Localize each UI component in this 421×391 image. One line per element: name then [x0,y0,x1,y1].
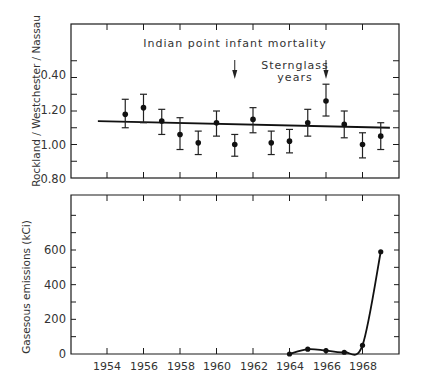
bottom-ytick-label: 600 [44,243,66,257]
bottom-ytick-label: 400 [44,278,66,292]
chart-figure: Indian point infant mortality Sternglass… [0,0,421,391]
data-point [250,108,257,133]
xtick-label: 1954 [93,360,121,373]
top-ytick-label: 0.40 [40,68,66,82]
top-ytick-label: 0.80 [40,172,66,186]
bottom-panel: Gasesous emissions (kCi) 600 400 200 0 1… [20,195,399,373]
emission-point [305,347,310,352]
emissions-curve [290,252,381,355]
data-point [213,111,220,136]
bottom-ytick-label: 200 [44,312,66,326]
data-point [140,94,147,122]
data-point [268,131,275,154]
data-point [286,129,293,152]
xtick-label: 1962 [240,360,268,373]
top-panel: Indian point infant mortality Sternglass… [30,15,399,187]
bottom-y-tick-labels: 600 400 200 0 [44,243,66,361]
xtick-label: 1964 [276,360,304,373]
data-point [158,109,165,134]
xtick-label: 1960 [203,360,231,373]
xtick-label: 1968 [349,360,377,373]
data-point [359,133,366,158]
bottom-ticks [71,195,399,354]
bottom-y-axis-label: Gasesous emissions (kCi) [20,220,32,354]
data-point [195,131,202,154]
data-point [122,99,129,127]
bottom-plot-frame [71,195,399,354]
xtick-label: 1956 [130,360,158,373]
data-points-with-error-bars [122,84,385,158]
emissions-line [287,249,383,356]
data-point [304,109,311,136]
top-ytick-label: 1.00 [40,138,66,152]
annotation-line2: years [277,71,312,84]
x-tick-labels: 1954 1956 1958 1960 1962 1964 1966 1968 [93,360,377,373]
data-point [341,111,348,138]
data-point [231,134,238,156]
xtick-label: 1966 [313,360,341,373]
chart-canvas: Indian point infant mortality Sternglass… [0,0,421,391]
emission-point [287,351,292,356]
data-point [323,84,330,116]
emission-point [323,348,328,353]
top-y-axis-label: Rockland / Westchester / Nassau [30,15,42,187]
top-title: Indian point infant mortality [143,37,326,50]
top-y-tick-labels: 0.40 1.20 1.00 0.80 [40,68,66,186]
bottom-ytick-label: 0 [59,347,66,361]
top-ytick-label: 1.20 [40,103,66,117]
down-arrow-icon [232,60,237,79]
xtick-label: 1958 [167,360,195,373]
emission-point [378,249,383,254]
emission-point [360,343,365,348]
emission-point [342,350,347,355]
